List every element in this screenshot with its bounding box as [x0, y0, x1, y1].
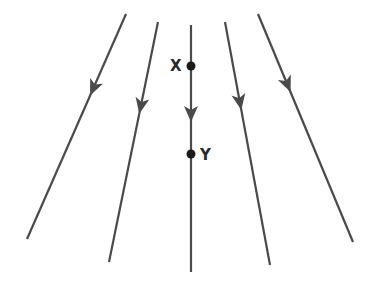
- field-line-segment: [27, 14, 126, 239]
- point-x: [187, 62, 196, 71]
- point-label-x: X: [170, 57, 182, 75]
- field-line: [109, 22, 158, 262]
- field-line-segment: [109, 22, 158, 262]
- field-line-segment: [225, 22, 270, 265]
- field-line: [258, 14, 353, 242]
- arrow-down-icon: [132, 97, 149, 115]
- point-label-y: Y: [199, 146, 212, 164]
- arrow-down-icon: [278, 75, 297, 95]
- field-line-diagram: XY: [0, 0, 376, 287]
- field-line-segment: [258, 14, 353, 242]
- arrow-down-icon: [84, 78, 103, 98]
- field-line: [27, 14, 126, 239]
- arrow-down-icon: [232, 93, 249, 111]
- point-y: [187, 150, 196, 159]
- field-line: [225, 22, 270, 265]
